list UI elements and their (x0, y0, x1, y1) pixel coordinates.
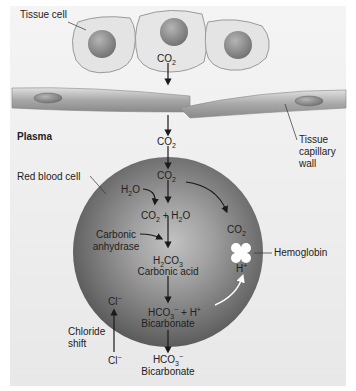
red-blood-cell-label: Red blood cell (17, 171, 80, 183)
diagram-graphics (0, 0, 356, 391)
hco3-outside-label: HCO3− (128, 354, 208, 366)
carbonic-acid-label: Carbonic acid (128, 266, 208, 278)
co2-rbc-label: CO2 (157, 170, 176, 182)
h-plus-hemoglobin-label: H+ (236, 263, 247, 275)
co2-tissue-label: CO2 (157, 53, 176, 65)
tissue-cell-label: Tissue cell (20, 9, 67, 21)
cl-inside-label: Cl− (108, 296, 122, 308)
plasma-label: Plasma (17, 131, 52, 143)
carbonic-anhydrase-label: Carbonic anhydrase (86, 229, 146, 253)
co2-plasma-label: CO2 (157, 136, 176, 148)
hemoglobin-label: Hemoglobin (274, 247, 327, 259)
bicarbonate-outside-label: Bicarbonate (128, 366, 208, 378)
tissue-capillary-wall-label: Tissue capillary wall (299, 134, 336, 170)
bicarbonate-inside-label: Bicarbonate (128, 318, 208, 330)
co2-transport-diagram: Tissue cell CO2 Plasma CO2 Tissue capill… (0, 0, 356, 391)
co2-hemoglobin-label: CO2 (227, 224, 246, 236)
cl-outside-label: Cl− (108, 355, 122, 367)
chloride-shift-label: Chloride shift (68, 326, 105, 350)
co2-plus-h2o-label: CO2 + H2O (141, 210, 190, 222)
h2o-label: H2O (121, 184, 140, 196)
